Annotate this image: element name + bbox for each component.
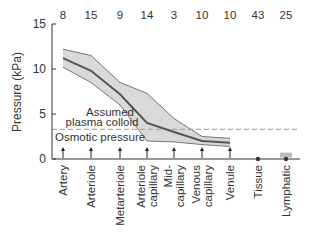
top-number-label: 10 [224,9,237,21]
category-label: Artery [57,165,69,196]
top-number-label: 25 [280,9,293,21]
top-number-label: 10 [196,9,209,21]
category-label-text: capillary [174,165,186,207]
arrowhead-icon [118,147,122,151]
point-marker [256,157,260,161]
y-tick-label: 10 [33,62,47,76]
category-label: Venouscapillary [190,165,214,207]
chart-svg: 051015 815914310104325Pressure (kPa)Assu… [0,0,311,242]
arrowhead-icon [145,147,149,151]
arrowhead-icon [200,147,204,151]
top-number-label: 14 [141,9,154,21]
arrowhead-icon [89,147,93,151]
top-number-label: 9 [117,9,123,21]
y-tick-label: 5 [39,107,46,121]
category-label-text: Mid- [162,165,174,188]
category-label-text: capillary [202,165,214,207]
pressure-chart: 051015 815914310104325Pressure (kPa)Assu… [0,0,311,242]
category-label-text: capillary [147,165,159,207]
y-tick-label: 15 [33,17,47,31]
y-tick-label: 0 [39,152,46,166]
reference-label-line3: Osmotic pressure [55,131,145,143]
category-label-text: Venous [190,165,202,204]
top-number-label: 15 [85,9,98,21]
category-label: Lymphatic [280,165,292,217]
category-label: Venule [224,165,236,200]
arrowhead-icon [172,147,176,151]
category-label: Tissue [252,165,264,198]
category-label-text: Metarteriole [114,165,126,226]
arrowhead-icon [61,147,65,151]
category-label: Mid-capillary [162,165,186,207]
point-marker [284,157,288,161]
category-label: Arteriolecapillary [135,165,159,208]
category-label-text: Arteriole [85,165,97,208]
category-label: Metarteriole [114,165,126,226]
category-label-text: Artery [57,165,69,196]
category-label-text: Lymphatic [280,165,292,217]
category-label-text: Arteriole [135,165,147,208]
arrowhead-icon [228,147,232,151]
y-axis-title: Pressure (kPa) [10,52,24,132]
top-number-label: 8 [60,9,66,21]
top-number-label: 43 [252,9,265,21]
category-label-text: Venule [224,165,236,200]
axes: 051015 [33,17,300,166]
top-number-label: 3 [171,9,177,21]
category-label: Arteriole [85,165,97,208]
category-label-text: Tissue [252,165,264,198]
reference-label-line2: plasma colloid [66,116,139,128]
